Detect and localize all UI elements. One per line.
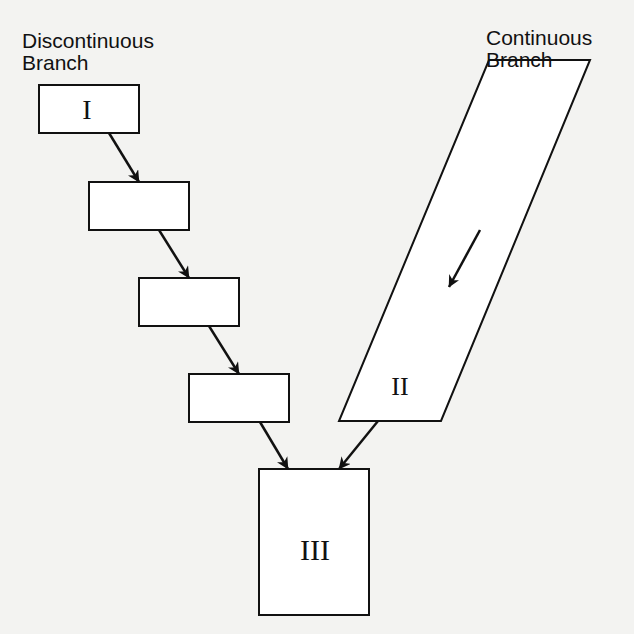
discontinuous-branch-label-line2: Branch xyxy=(22,52,89,73)
box-1-label: I xyxy=(82,94,91,126)
box-4 xyxy=(189,374,289,422)
box-3 xyxy=(139,278,239,326)
arrow-parallelogram-to-final xyxy=(339,421,378,469)
continuous-branch-label-line1: Continuous xyxy=(486,27,592,48)
parallelogram-label: II xyxy=(391,372,408,402)
arrow-box1-to-box2 xyxy=(109,133,139,182)
continuous-parallelogram xyxy=(339,60,590,421)
box-final-label: III xyxy=(300,533,330,567)
continuous-branch-label-line2: Branch xyxy=(486,49,553,70)
arrow-box3-to-box4 xyxy=(209,326,239,374)
discontinuous-branch-label-line1: Discontinuous xyxy=(22,30,154,51)
arrow-box4-to-final xyxy=(260,422,288,469)
arrow-box2-to-box3 xyxy=(159,230,189,278)
box-2 xyxy=(89,182,189,230)
